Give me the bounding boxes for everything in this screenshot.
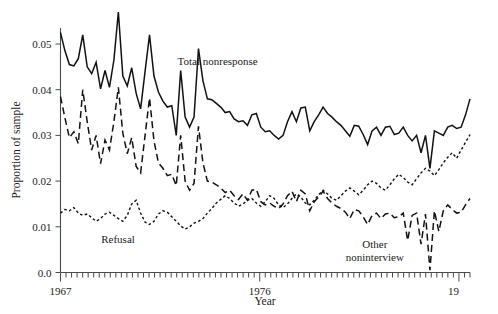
y-axis-title: Proportion of sample <box>10 101 23 198</box>
y-tick-label: 0.02 <box>32 175 51 187</box>
series-line-refusal <box>61 134 471 229</box>
y-tick-label: 0.01 <box>32 221 51 233</box>
series-annotation: Other <box>362 238 387 250</box>
x-axis-title: Year <box>254 295 275 307</box>
y-tick-label: 0.04 <box>32 84 52 96</box>
line-chart: 0.00.010.020.030.040.05 1967197619 Total… <box>0 0 498 314</box>
chart-figure: 0.00.010.020.030.040.05 1967197619 Total… <box>0 0 498 314</box>
x-axis: 1967197619 <box>50 273 471 297</box>
series-annotation: noninterview <box>346 251 404 263</box>
series-annotation: Refusal <box>101 233 135 245</box>
series-annotations: Total nonresponseRefusalOthernonintervie… <box>101 55 404 264</box>
y-tick-labels: 0.00.010.020.030.040.05 <box>32 38 52 279</box>
series-line-total-nonresponse <box>61 12 471 168</box>
x-tick-marks <box>61 273 471 282</box>
series-paths <box>61 12 471 270</box>
y-tick-marks <box>56 44 61 273</box>
x-tick-label: 19 <box>448 285 460 297</box>
y-tick-label: 0.03 <box>32 129 52 141</box>
series-annotation: Total nonresponse <box>178 55 258 67</box>
y-tick-label: 0.05 <box>32 38 52 50</box>
x-tick-label: 1967 <box>50 285 73 297</box>
y-axis: 0.00.010.020.030.040.05 <box>32 28 60 279</box>
y-tick-label: 0.0 <box>38 267 52 279</box>
